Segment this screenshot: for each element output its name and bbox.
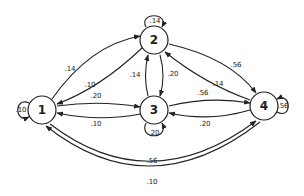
edge-2-to-3 xyxy=(160,55,163,96)
label-edge-4-4: .56 xyxy=(277,102,289,110)
node-2-label: 2 xyxy=(150,33,158,47)
edge-3-to-1 xyxy=(57,113,140,118)
label-edge-3-1: .10 xyxy=(90,120,101,128)
edge-1-to-3 xyxy=(57,103,140,107)
edge-1-to-4 xyxy=(50,121,256,161)
edge-3-to-4 xyxy=(169,100,250,106)
node-2: 2 xyxy=(140,26,168,54)
label-edge-3-4: .56 xyxy=(197,89,209,97)
label-edge-3-3: .20 xyxy=(148,129,159,137)
node-4: 4 xyxy=(250,92,278,120)
node-1-label: 1 xyxy=(38,103,46,117)
label-edge-1-4: .56 xyxy=(146,157,158,165)
label-edge-4-2: .14 xyxy=(212,80,224,88)
edge-4-to-3 xyxy=(169,110,250,117)
node-4-label: 4 xyxy=(260,99,268,113)
node-1: 1 xyxy=(28,96,56,124)
edge-3-to-2 xyxy=(146,55,149,96)
node-3: 3 xyxy=(140,96,168,124)
label-edge-1-1: .10 xyxy=(15,106,26,114)
label-edge-1-3: .20 xyxy=(90,92,101,100)
label-edge-2-3: .20 xyxy=(167,70,178,78)
label-edge-1-2: .14 xyxy=(64,65,76,73)
label-edge-2-1: .10 xyxy=(84,81,95,89)
markov-chain-diagram: 1 2 3 4 .10 .14 .10 .20 .10 .14 .14 .20 … xyxy=(0,0,304,196)
label-edge-4-3: .20 xyxy=(199,120,210,128)
label-edge-3-2: .14 xyxy=(129,71,141,79)
diagram-canvas: 1 2 3 4 .10 .14 .10 .20 .10 .14 .14 .20 … xyxy=(0,0,304,196)
label-edge-2-4: .56 xyxy=(230,61,242,69)
label-edge-2-2: .14 xyxy=(149,17,161,25)
label-edge-4-1: .10 xyxy=(146,178,157,186)
node-3-label: 3 xyxy=(150,103,158,117)
